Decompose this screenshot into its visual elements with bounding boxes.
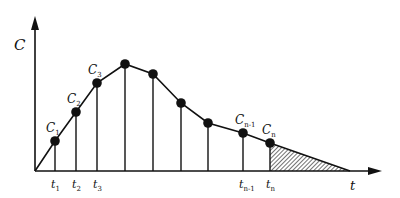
- sample-point: [265, 138, 275, 148]
- point-label-c2: C2: [67, 92, 81, 108]
- sample-point: [71, 107, 81, 117]
- sample-point: [50, 136, 60, 146]
- sample-points: [50, 59, 275, 148]
- sample-point: [176, 98, 186, 108]
- point-label-cn-1: Cn-1: [235, 113, 256, 129]
- x-axis-label: t: [350, 178, 356, 193]
- curve-line: [35, 64, 350, 171]
- tick-label-t1: t1: [51, 178, 60, 193]
- x-axis-arrow-icon: [368, 167, 382, 175]
- tick-label-t2: t2: [72, 178, 81, 193]
- sample-point: [120, 59, 130, 69]
- y-axis-label: C: [14, 36, 26, 54]
- y-axis-arrow-icon: [31, 16, 39, 30]
- tick-label-tn-1: tn-1: [239, 178, 255, 193]
- point-label-c3: C3: [88, 63, 102, 79]
- tick-label-t3: t3: [93, 178, 102, 193]
- point-label-cn: Cn: [262, 123, 276, 139]
- tick-label-tn: tn: [266, 178, 275, 193]
- concentration-curve: [35, 64, 350, 171]
- axes: [31, 16, 382, 175]
- sample-point: [203, 118, 213, 128]
- concentration-time-diagram: C t C1t1C2t2C3t3Cn-1tn-1Cntn: [0, 0, 400, 198]
- sample-point: [238, 128, 248, 138]
- point-label-c1: C1: [46, 121, 60, 137]
- sample-point: [92, 78, 102, 88]
- sample-point: [148, 69, 158, 79]
